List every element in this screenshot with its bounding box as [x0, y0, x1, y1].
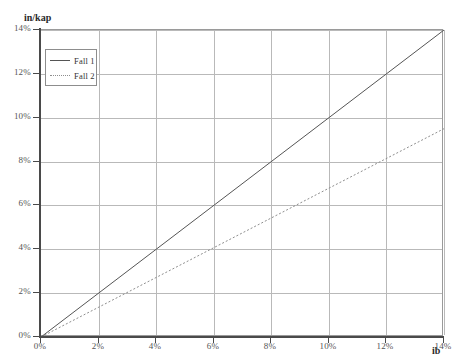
y-axis-tick-label: 8%: [1, 155, 31, 165]
y-axis-tick: [33, 161, 39, 162]
x-axis-tick-label: 10%: [313, 341, 343, 351]
legend-label: Fall 1: [74, 56, 95, 66]
x-axis-tick-label: 12%: [370, 341, 400, 351]
y-axis-tick-label: 4%: [1, 242, 31, 252]
series-line-fall-2: [41, 129, 444, 337]
y-axis-tick-label: 14%: [1, 23, 31, 33]
legend-item-fall-1: Fall 1: [50, 53, 92, 68]
y-axis-tick-label: 12%: [1, 67, 31, 77]
x-axis-tick-label: 0%: [25, 341, 55, 351]
x-axis-line: [39, 336, 444, 338]
legend-label: Fall 2: [74, 71, 95, 81]
chart-container: in/kap ib 0%2%4%6%8%10%12%14% 0%2%4%6%8%…: [0, 0, 465, 362]
y-axis-tick-label: 6%: [1, 198, 31, 208]
y-axis-tick-label: 0%: [1, 330, 31, 340]
y-axis-line: [39, 28, 41, 337]
y-axis-title: in/kap: [24, 12, 51, 23]
y-axis-tick: [33, 292, 39, 293]
x-axis-tick-label: 2%: [83, 341, 113, 351]
y-axis-tick: [33, 336, 39, 337]
y-axis-tick-label: 10%: [1, 111, 31, 121]
gridline-vertical: [444, 30, 445, 335]
chart-legend: Fall 1 Fall 2: [45, 49, 97, 86]
x-axis-tick-label: 14%: [428, 341, 458, 351]
y-axis-tick: [33, 29, 39, 30]
x-axis-tick-label: 6%: [198, 341, 228, 351]
x-axis-tick-label: 8%: [255, 341, 285, 351]
y-axis-tick: [33, 117, 39, 118]
legend-swatch-solid-icon: [50, 60, 70, 61]
x-axis-tick-label: 4%: [140, 341, 170, 351]
y-axis-tick: [33, 204, 39, 205]
y-axis-tick: [33, 248, 39, 249]
legend-item-fall-2: Fall 2: [50, 68, 92, 83]
legend-swatch-dotted-icon: [50, 75, 70, 76]
y-axis-tick: [33, 73, 39, 74]
series-line-fall-1: [41, 30, 444, 337]
plot-area: [40, 29, 443, 336]
y-axis-tick-label: 2%: [1, 286, 31, 296]
data-series-layer: [41, 30, 444, 337]
